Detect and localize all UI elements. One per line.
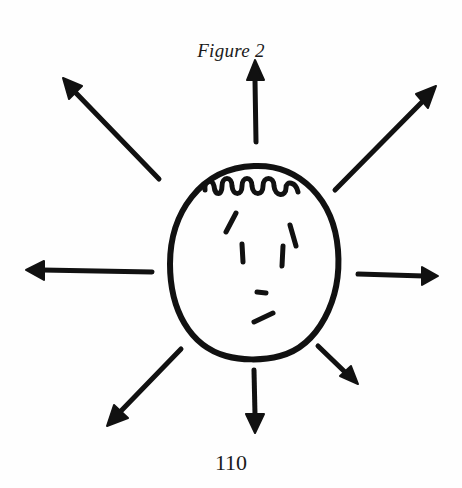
eyes bbox=[242, 244, 283, 266]
arrow-down-left-icon bbox=[107, 349, 181, 426]
arrow-down-right-icon bbox=[318, 346, 358, 384]
arrow-up-icon bbox=[247, 60, 264, 142]
arrow-up-right-icon bbox=[335, 86, 436, 190]
book-page: Figure 2 bbox=[0, 0, 462, 488]
hair bbox=[205, 179, 298, 195]
arrow-left-icon bbox=[26, 261, 152, 280]
page-number: 110 bbox=[0, 450, 462, 476]
arrow-right-icon bbox=[358, 267, 438, 285]
right-eye bbox=[282, 246, 283, 266]
eyebrows bbox=[226, 213, 296, 246]
right-eyebrow bbox=[290, 225, 296, 246]
mouth bbox=[254, 313, 273, 322]
nose bbox=[257, 292, 266, 293]
arrow-down-icon bbox=[246, 370, 264, 433]
left-eyebrow bbox=[226, 213, 236, 232]
face-with-arrows-drawing bbox=[0, 0, 462, 488]
arrow-up-left-icon bbox=[63, 78, 159, 179]
left-eye bbox=[242, 244, 243, 262]
